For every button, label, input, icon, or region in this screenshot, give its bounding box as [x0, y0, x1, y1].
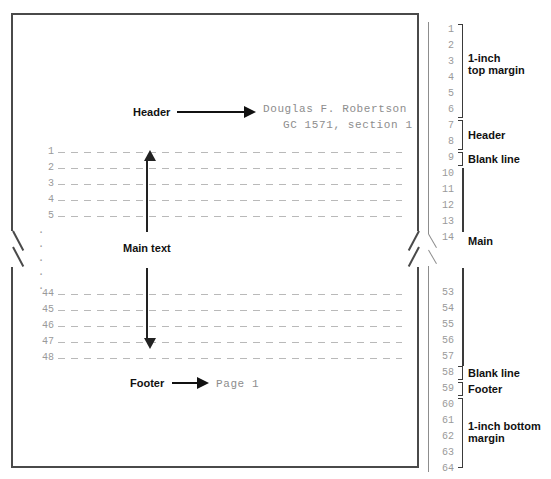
callout-footer-arrow-shaft — [172, 382, 198, 384]
left-line-number: 46 — [28, 321, 54, 331]
left-line-number: 1 — [28, 147, 54, 157]
ruler-label-top-margin: 1-inch top margin — [468, 52, 525, 76]
left-line-number: 44 — [28, 289, 54, 299]
left-line-number: 47 — [28, 337, 54, 347]
callout-header-label: Header — [133, 106, 170, 118]
header-text-line-2: GC 1571, section 1 — [283, 119, 413, 131]
ruler-line-number: 63 — [434, 448, 454, 458]
header-text-line-1: Douglas F. Robertson — [263, 103, 407, 115]
ruler-label-header: Header — [468, 129, 505, 141]
left-line-number: 48 — [28, 353, 54, 363]
bracket-blank-line-top — [458, 152, 463, 166]
left-ellipsis-dot: · — [28, 243, 54, 249]
ruler-line-number: 1 — [434, 25, 454, 35]
ruler-label-bottom-margin: 1-inch bottom margin — [468, 420, 541, 444]
footer-text: Page 1 — [216, 378, 259, 390]
left-line-number: 4 — [28, 195, 54, 205]
ruler-line-number: 11 — [434, 185, 454, 195]
sheet-top-border — [11, 13, 419, 15]
text-line-dash — [58, 216, 402, 217]
ruler-line-number: 58 — [434, 368, 454, 378]
text-line-dash — [58, 342, 402, 343]
ruler-rail-lower — [428, 266, 429, 472]
ruler-line-number: 9 — [434, 153, 454, 163]
callout-header-arrow-shaft — [177, 111, 245, 113]
sheet-bottom-border — [11, 466, 419, 468]
text-line-dash — [58, 168, 402, 169]
ruler-line-number: 61 — [434, 416, 454, 426]
callout-main-text-label: Main text — [119, 240, 175, 256]
ruler-line-number: 8 — [434, 137, 454, 147]
ruler-label-blank-line-top: Blank line — [468, 153, 520, 165]
sheet-left-border-lower — [11, 267, 13, 468]
ruler-line-number: 60 — [434, 400, 454, 410]
left-ellipsis-dot: · — [28, 271, 54, 277]
ruler-rail-upper — [428, 22, 429, 234]
left-line-number: 45 — [28, 305, 54, 315]
text-line-dash — [58, 294, 402, 295]
callout-footer-label: Footer — [130, 377, 164, 389]
ruler-line-number: 4 — [434, 73, 454, 83]
ruler-label-blank-line-bottom: Blank line — [468, 367, 520, 379]
ruler-line-number: 7 — [434, 121, 454, 131]
left-ellipsis-dot: · — [28, 229, 54, 235]
text-line-dash — [58, 152, 402, 153]
ruler-line-number: 57 — [434, 352, 454, 362]
ruler-line-number: 14 — [434, 233, 454, 243]
ruler-line-number: 56 — [434, 336, 454, 346]
ruler-line-number: 64 — [434, 464, 454, 474]
ruler-line-number: 5 — [434, 89, 454, 99]
ruler-line-number: 59 — [434, 384, 454, 394]
ruler-line-number: 54 — [434, 304, 454, 314]
main-text-arrow-head-down — [144, 338, 156, 349]
main-text-arrow-shaft-upper — [146, 160, 148, 232]
left-ellipsis-dot: · — [28, 257, 54, 263]
ruler-label-main: Main — [468, 235, 493, 247]
bracket-blank-line-bottom — [458, 366, 463, 380]
main-text-arrow-shaft-lower — [146, 268, 148, 340]
ruler-label-footer: Footer — [468, 383, 502, 395]
bracket-top-margin — [458, 24, 463, 118]
callout-header-arrow-head — [244, 106, 256, 118]
ruler-line-number: 53 — [434, 288, 454, 298]
text-line-dash — [58, 358, 402, 359]
ruler-line-number: 12 — [434, 201, 454, 211]
sheet-left-border-upper — [11, 13, 13, 231]
bracket-header — [458, 120, 463, 150]
text-line-dash — [58, 200, 402, 201]
ruler-line-number: 10 — [434, 169, 454, 179]
ruler-line-number: 3 — [434, 57, 454, 67]
sheet-right-border-lower — [417, 267, 419, 468]
left-line-number: 2 — [28, 163, 54, 173]
ruler-line-number: 6 — [434, 105, 454, 115]
bracket-footer — [458, 382, 463, 396]
text-line-dash — [58, 326, 402, 327]
sheet-right-border-upper — [417, 13, 419, 231]
ruler-line-number: 55 — [434, 320, 454, 330]
page-layout-diagram: Douglas F. Robertson GC 1571, section 1 … — [0, 0, 551, 479]
left-line-number: 3 — [28, 179, 54, 189]
text-line-dash — [58, 310, 402, 311]
bracket-bottom-margin — [458, 398, 463, 468]
ruler-break-slash-lower — [428, 250, 437, 264]
bracket-main-lower — [462, 268, 464, 366]
ruler-line-number: 62 — [434, 432, 454, 442]
ruler-line-number: 2 — [434, 41, 454, 51]
bracket-main-upper — [462, 168, 464, 232]
callout-footer-arrow-head — [197, 377, 209, 389]
text-line-dash — [58, 184, 402, 185]
left-line-number: 5 — [28, 211, 54, 221]
ruler-line-number: 13 — [434, 217, 454, 227]
